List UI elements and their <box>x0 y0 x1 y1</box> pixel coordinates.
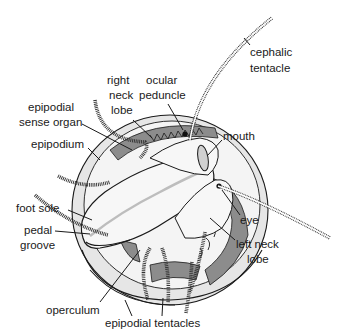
svg-text:lobe: lobe <box>111 104 133 116</box>
snail-anatomy-diagram: cephalic tentacle right neck lobe ocular… <box>0 0 342 336</box>
svg-text:ocular: ocular <box>146 74 177 86</box>
svg-text:left neck: left neck <box>236 238 279 250</box>
svg-text:epipodium: epipodium <box>31 138 84 150</box>
svg-text:operculum: operculum <box>46 304 100 316</box>
right-eye-dot <box>182 131 187 136</box>
svg-text:lobe: lobe <box>247 253 269 265</box>
svg-text:foot sole: foot sole <box>16 202 59 214</box>
svg-text:epipodial: epipodial <box>28 101 74 113</box>
svg-text:right: right <box>107 74 130 86</box>
svg-text:sense organ: sense organ <box>19 116 82 128</box>
svg-text:eye: eye <box>240 214 259 226</box>
svg-text:neck: neck <box>109 89 134 101</box>
svg-text:pedal: pedal <box>24 224 52 236</box>
svg-text:cephalic: cephalic <box>250 46 292 58</box>
label-cephalic-tentacle: cephalic tentacle <box>244 38 292 74</box>
svg-text:groove: groove <box>20 239 55 251</box>
svg-text:tentacle: tentacle <box>250 62 290 74</box>
svg-text:peduncle: peduncle <box>139 89 186 101</box>
svg-text:mouth: mouth <box>223 130 255 142</box>
svg-text:epipodial tentacles: epipodial tentacles <box>105 317 201 329</box>
